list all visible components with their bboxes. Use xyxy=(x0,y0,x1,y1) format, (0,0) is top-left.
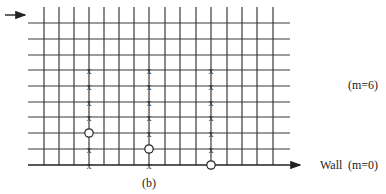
figure-caption: (b) xyxy=(142,176,156,191)
cross-marker-icon: x xyxy=(209,81,214,92)
cross-marker-icon: x xyxy=(147,112,152,123)
circle-marker-icon xyxy=(85,129,93,137)
cross-marker-icon: x xyxy=(209,65,214,76)
cross-marker-icon: x xyxy=(147,128,152,139)
mesh-grid xyxy=(28,7,290,165)
cross-marker-icon: x xyxy=(147,65,152,76)
cross-marker-icon: x xyxy=(87,65,92,76)
label-wall: Wall xyxy=(320,158,342,173)
cross-marker-icon: x xyxy=(87,160,92,171)
label-m6: (m=6) xyxy=(348,78,378,93)
cross-marker-icon: x xyxy=(87,97,92,108)
cross-marker-icon: x xyxy=(147,81,152,92)
cross-marker-icon: x xyxy=(209,112,214,123)
arrows xyxy=(5,15,300,165)
cross-marker-icon: x xyxy=(147,97,152,108)
circle-marker-icon xyxy=(207,161,215,169)
cross-marker-icon: x xyxy=(147,160,152,171)
cross-marker-icon: x xyxy=(209,144,214,155)
cross-marker-icon: x xyxy=(87,144,92,155)
circle-marker-icon xyxy=(145,145,153,153)
cross-marker-icon: x xyxy=(87,81,92,92)
cross-marker-icon: x xyxy=(87,112,92,123)
cross-marker-icon: x xyxy=(209,97,214,108)
cross-marker-icon: x xyxy=(209,128,214,139)
label-m0: (m=0) xyxy=(348,158,378,173)
